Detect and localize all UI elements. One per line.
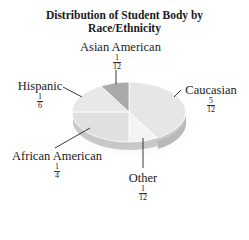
- label-other-fraction: 1 12: [139, 185, 147, 202]
- label-hispanic-fraction: 1 6: [37, 93, 43, 110]
- label-asian-american: Asian American 1 12: [80, 41, 154, 72]
- label-hispanic: Hispanic 1 6: [15, 80, 65, 111]
- label-caucasian-fraction: 5 12: [207, 97, 215, 114]
- label-caucasian: Caucasian 5 12: [183, 84, 239, 115]
- label-other: Other 1 12: [128, 172, 158, 203]
- leader-hispanic: [63, 87, 82, 97]
- leader-caucasian: [174, 90, 181, 97]
- label-asian-fraction: 1 12: [113, 54, 121, 71]
- label-african-american: African American 1 4: [11, 150, 103, 181]
- label-african-fraction: 1 4: [54, 163, 60, 180]
